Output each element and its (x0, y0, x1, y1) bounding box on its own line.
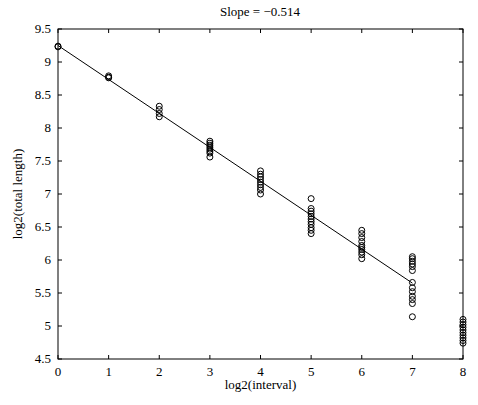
axes-box (58, 29, 463, 359)
data-point (258, 191, 264, 197)
data-point (207, 154, 213, 160)
plot-frame (58, 29, 463, 359)
y-tick-label: 9.5 (35, 21, 51, 36)
data-point (409, 301, 415, 307)
data-point (409, 268, 415, 274)
scatter-plot: 0123456784.555.566.577.588.599.5 (0, 0, 478, 405)
y-tick-label: 7.5 (35, 153, 51, 168)
y-tick-label: 8.5 (35, 87, 51, 102)
y-tick-label: 6.5 (35, 219, 51, 234)
regression-line (58, 46, 412, 284)
axis-ticks: 0123456784.555.566.577.588.599.5 (35, 21, 467, 379)
y-tick-label: 9 (45, 54, 52, 69)
data-point (359, 256, 365, 262)
data-point (308, 196, 314, 202)
y-tick-label: 5.5 (35, 285, 51, 300)
y-axis-label: log2(total length) (10, 124, 26, 264)
y-tick-label: 5 (45, 318, 52, 333)
x-axis-label: log2(interval) (58, 377, 463, 393)
y-tick-label: 4.5 (35, 351, 51, 366)
chart-title: Slope = −0.514 (0, 4, 478, 20)
data-points (55, 43, 466, 346)
y-tick-label: 6 (45, 252, 52, 267)
fit-line (58, 46, 412, 284)
y-tick-label: 8 (45, 120, 52, 135)
data-point (409, 314, 415, 320)
y-tick-label: 7 (45, 186, 52, 201)
